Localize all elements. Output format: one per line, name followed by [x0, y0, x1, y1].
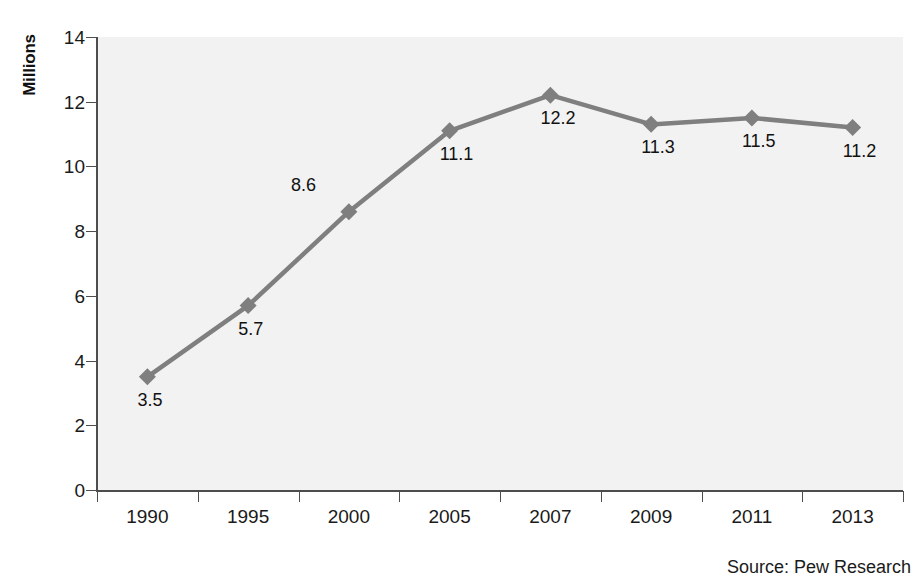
- data-point-label: 8.6: [291, 176, 316, 194]
- series-marker: [743, 109, 760, 126]
- series-layer: [0, 0, 923, 586]
- series-marker: [542, 87, 559, 104]
- source-note: Source: Pew Research: [727, 557, 911, 578]
- data-point-label: 11.3: [641, 138, 675, 156]
- data-point-label: 3.5: [137, 391, 162, 409]
- series-marker: [844, 119, 861, 136]
- series-marker: [643, 116, 660, 133]
- line-chart: Millions 02468101214 1990199520002005200…: [0, 0, 923, 586]
- data-point-label: 11.1: [440, 145, 474, 163]
- data-point-label: 11.2: [843, 142, 877, 160]
- data-point-label: 12.2: [540, 109, 575, 127]
- data-point-label: 11.5: [742, 132, 776, 150]
- data-point-label: 5.7: [238, 320, 263, 338]
